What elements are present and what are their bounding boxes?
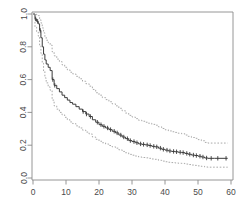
y-tick-label-0.0: 0.0 <box>19 172 29 184</box>
y-tick-label-0.6: 0.6 <box>19 73 29 85</box>
y-tick-label-0.8: 0.8 <box>19 41 29 53</box>
x-tick-label-50: 50 <box>193 187 203 197</box>
y-tick-label-0.2: 0.2 <box>19 139 29 151</box>
x-tick-label-30: 30 <box>127 187 137 197</box>
x-tick-label-20: 20 <box>94 187 104 197</box>
y-tick-label-0.4: 0.4 <box>19 106 29 118</box>
x-tick-label-10: 10 <box>61 187 71 197</box>
x-tick-label-0: 0 <box>31 187 36 197</box>
x-tick-label-60: 60 <box>226 187 236 197</box>
y-tick-label-1.0: 1.0 <box>19 8 29 20</box>
x-tick-label-40: 40 <box>160 187 170 197</box>
km-plot-svg: 0102030405060 0.00.20.40.60.81.0 <box>0 0 249 212</box>
km-plot-figure: 0102030405060 0.00.20.40.60.81.0 <box>0 0 249 212</box>
